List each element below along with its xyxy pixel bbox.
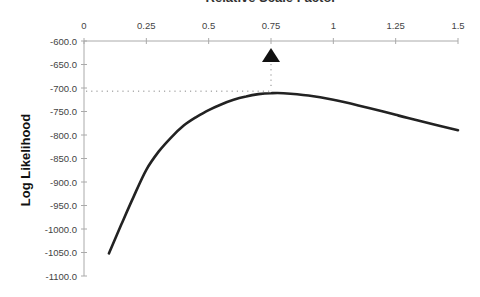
x-tick-label: 0.75 (262, 20, 281, 31)
y-tick-label: -850.0 (50, 153, 77, 164)
y-tick-label: -1000.0 (45, 224, 77, 235)
x-tick-label: 1 (331, 20, 336, 31)
y-tick-label: -900.0 (50, 177, 77, 188)
chart-title: Relative Scale Factor (206, 0, 337, 5)
x-axis: 00.250.50.7511.251.5 (81, 20, 464, 44)
x-tick-label: 1.5 (451, 20, 464, 31)
log-likelihood-chart: Relative Scale Factor 00.250.50.7511.251… (0, 0, 480, 297)
y-tick-label: -1050.0 (45, 247, 77, 258)
y-tick-label: -600.0 (50, 36, 77, 47)
max-triangle-marker-icon (262, 48, 280, 62)
y-tick-label: -800.0 (50, 130, 77, 141)
y-tick-label: -950.0 (50, 200, 77, 211)
y-tick-label: -1100.0 (45, 271, 77, 282)
x-tick-label: 1.25 (386, 20, 405, 31)
y-axis-label: Log Likelihood (18, 114, 33, 206)
y-tick-label: -700.0 (50, 83, 77, 94)
max-guides (86, 64, 271, 91)
x-tick-label: 0 (81, 20, 86, 31)
x-tick-label: 0.25 (137, 20, 156, 31)
likelihood-curve (109, 93, 458, 253)
x-tick-label: 0.5 (202, 20, 215, 31)
y-tick-label: -650.0 (50, 59, 77, 70)
y-axis: -600.0-650.0-700.0-750.0-800.0-850.0-900… (45, 36, 87, 282)
y-tick-label: -750.0 (50, 106, 77, 117)
